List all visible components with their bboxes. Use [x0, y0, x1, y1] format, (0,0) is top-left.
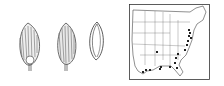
botanical-figure: [0, 0, 224, 86]
spikelet-2-illustration: [58, 23, 76, 71]
distribution-map: [130, 5, 210, 80]
floret-illustration: [90, 22, 104, 60]
spikelet-1-illustration: [20, 23, 40, 71]
